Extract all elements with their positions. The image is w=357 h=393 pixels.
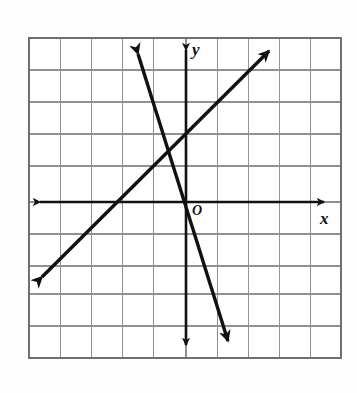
y-axis-label: y xyxy=(192,41,200,58)
coordinate-plane xyxy=(0,0,357,393)
graph-figure: y x O xyxy=(0,0,357,393)
x-axis-label: x xyxy=(320,210,329,227)
origin-label: O xyxy=(192,204,202,218)
